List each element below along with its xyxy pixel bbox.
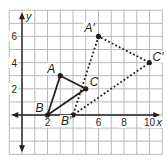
x-tick-label: 8 bbox=[121, 117, 127, 128]
x-tick-label: 10 bbox=[144, 117, 156, 128]
vertex-point bbox=[147, 60, 152, 65]
x-axis-label: x bbox=[156, 116, 163, 128]
x-tick-label: 6 bbox=[96, 117, 102, 128]
vertex-point bbox=[83, 86, 88, 91]
y-tick-label: 2 bbox=[11, 84, 17, 95]
y-axis-arrow-up-icon bbox=[19, 12, 25, 19]
vertex-label: A′ bbox=[84, 21, 96, 35]
x-axis-arrow-left-icon bbox=[11, 112, 18, 118]
vertex-label: B bbox=[36, 101, 44, 115]
y-tick-label: 4 bbox=[11, 58, 17, 69]
vertex-label: C′ bbox=[153, 50, 165, 64]
vertex-label: C bbox=[90, 75, 99, 89]
vertex-label: B′ bbox=[61, 114, 72, 128]
vertex-point bbox=[45, 112, 50, 117]
x-tick-label: 2 bbox=[45, 117, 51, 128]
vertex-label: A bbox=[46, 62, 55, 76]
vertex-point bbox=[58, 73, 63, 78]
coordinate-plane: y26810x246 ABCA′B′C′ bbox=[0, 0, 167, 161]
vertex-point bbox=[96, 34, 101, 39]
y-tick-label: 6 bbox=[11, 31, 17, 42]
y-axis-arrow-down-icon bbox=[19, 145, 25, 152]
